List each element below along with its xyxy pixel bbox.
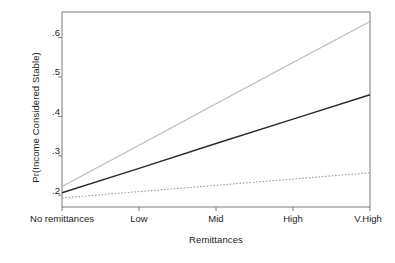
- y-axis-ticks: [58, 38, 62, 196]
- x-axis-ticks: [62, 207, 370, 211]
- series-line-0: [62, 21, 370, 186]
- series-lines: [62, 21, 370, 197]
- series-line-2: [62, 173, 370, 198]
- plot-area: [0, 0, 395, 263]
- chart-figure: Pr(Income Considered Stable) Remittances…: [0, 0, 395, 263]
- series-line-1: [62, 95, 370, 193]
